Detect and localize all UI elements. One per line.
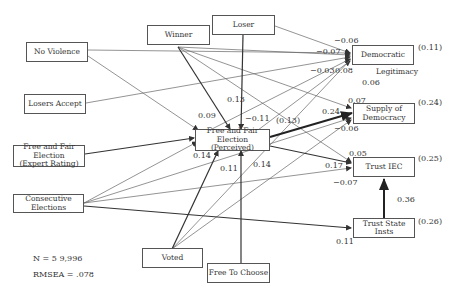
coef-cons-iec: 0.17 (325, 161, 343, 170)
coef-loser-ffe: −0.11 (245, 114, 270, 123)
node-loser: Loser (212, 15, 275, 35)
node-label: Loser (233, 21, 254, 30)
node-losers-accept: Losers Accept (24, 94, 86, 114)
node-free-to-choose: Free To Choose (207, 263, 270, 283)
node-label: Voted (162, 254, 184, 263)
node-supply-democracy: Supply of Democracy (353, 103, 415, 124)
node-label: Free To Choose (209, 269, 268, 278)
coef-voted-ffe: 0.11 (220, 164, 238, 173)
node-trust-iec: Trust IEC (353, 157, 415, 177)
node-ffe-expert: Free and Fair Election (Expert Rating) (13, 145, 85, 167)
legitimacy-label: Legitimacy (376, 67, 418, 76)
node-label: Trust IEC (366, 163, 403, 172)
coef-winner-supply: 0.07 (348, 96, 366, 105)
node-ffe-perceived: Free and Fair Election (Perceived) (195, 129, 270, 151)
node-label: Free and Fair Election (14, 143, 84, 160)
coef-other-supply: −0.06 (334, 124, 359, 133)
coef-other-iec: −0.07 (333, 178, 358, 187)
coef-cons-state: 0.11 (336, 237, 354, 246)
r2-democratic: (0.11) (418, 43, 442, 52)
node-label: Free and Fair Election (196, 127, 269, 144)
sample-size: N = 5 9,996 (33, 254, 82, 263)
coef-winner-democratic: −0.03 (310, 66, 335, 75)
node-label: No Violence (34, 48, 80, 57)
r2-trust-state: (0.26) (418, 217, 442, 226)
coef-choose-ffe: 0.14 (253, 160, 271, 169)
coef-supply-dem: 0.06 (362, 78, 380, 87)
node-democratic: Democratic (352, 45, 414, 65)
coef-winner-ffe: 0.13 (227, 95, 245, 104)
node-label: (Perceived) (211, 144, 254, 153)
coef-loser-democratic: −0.06 (334, 36, 359, 45)
node-label: Democracy (363, 114, 406, 123)
rmsea: RMSEA = .078 (33, 270, 94, 279)
coef-winner-iec: 0.05 (349, 149, 367, 158)
coef-expert-ffe: 0.14 (193, 151, 211, 160)
node-label: Consecutive Elections (14, 195, 83, 212)
node-label: Winner (165, 31, 193, 40)
node-trust-state: Trust State Insts (353, 218, 415, 238)
r2-ffe-perceived: (0.13) (276, 116, 300, 125)
coef-state-iec: 0.36 (397, 195, 415, 204)
coef-noviolence-ffe: 0.09 (198, 111, 216, 120)
node-consecutive-elections: Consecutive Elections (13, 194, 84, 213)
node-label: (Expert Rating) (19, 160, 78, 169)
r2-supply: (0.24) (418, 98, 442, 107)
r2-trust-iec: (0.25) (418, 154, 442, 163)
node-label: Losers Accept (28, 100, 82, 109)
coef-ffe-democratic: 0.08 (335, 66, 353, 75)
coef-ffe-supply: 0.24 (322, 107, 340, 116)
node-winner: Winner (147, 25, 210, 45)
node-label: Democratic (361, 51, 405, 60)
node-no-violence: No Violence (26, 42, 88, 62)
coef-noviolence-democratic: −0.07 (316, 47, 341, 56)
node-voted: Voted (142, 248, 203, 268)
node-label: Trust State Insts (354, 220, 414, 237)
